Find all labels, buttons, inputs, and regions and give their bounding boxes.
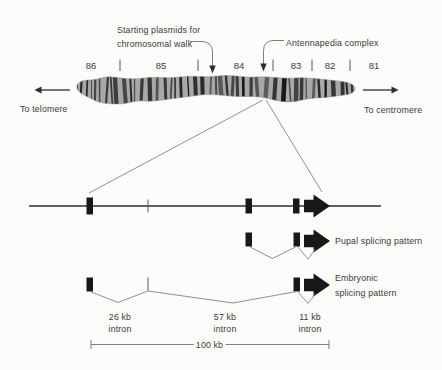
intron-2-label: intron: [214, 324, 237, 334]
region-number-85: 85: [156, 60, 167, 71]
telomere-label: To telomere: [20, 104, 68, 114]
exon-box-3: [293, 199, 300, 214]
callout-line-left: [89, 100, 263, 193]
region-number-84: 84: [234, 60, 245, 71]
region-number-83: 83: [291, 60, 302, 71]
intron-1-size: 26 kb: [109, 312, 131, 322]
intron-2-size: 57 kb: [214, 312, 236, 322]
embryonic-splice-junction-lines: [90, 291, 316, 304]
scale-bar: 100 kb: [91, 340, 329, 350]
chromosomal-walk-figure: Starting plasmids for chromosomal walk A…: [0, 0, 442, 370]
starting-plasmids-connector-line: [190, 42, 213, 67]
exon-box-2: [246, 199, 253, 214]
starting-plasmids-label-line1: Starting plasmids for: [117, 25, 200, 35]
pupal-exon-box-1: [246, 233, 253, 247]
region-number-86: 86: [86, 60, 97, 71]
pupal-exon-box-2: [294, 233, 301, 247]
polytene-chromosome-band: [76, 70, 355, 109]
intron-3-label: intron: [299, 324, 322, 334]
callout-line-right: [266, 100, 322, 192]
centromere-label: To centromere: [364, 105, 422, 115]
figure-canvas: Starting plasmids for chromosomal walk A…: [0, 0, 442, 370]
intron-3-size: 11 kb: [299, 312, 321, 322]
pupal-terminal-exon-arrow: [304, 230, 330, 253]
embryonic-pattern-label-line1: Embryonic: [335, 273, 378, 283]
embryonic-terminal-exon-arrow: [304, 274, 330, 297]
starting-plasmids-label-line2: chromosomal walk: [117, 39, 193, 49]
exon-box-1: [87, 198, 94, 215]
antennapedia-arrowhead-icon: [260, 64, 266, 72]
pupal-splicing-row: Pupal splicing pattern: [246, 230, 423, 260]
embryonic-exon-box-2: [294, 278, 301, 292]
region-number-81: 81: [369, 60, 380, 71]
pupal-pattern-label: Pupal splicing pattern: [335, 236, 422, 246]
embryonic-pattern-label-line2: splicing pattern: [335, 288, 397, 298]
intron-labels: 26 kb intron 57 kb intron 11 kb intron: [109, 312, 322, 334]
terminal-exon-arrow: [304, 195, 330, 218]
antennapedia-connector-line: [264, 41, 285, 65]
pupal-splice-junction-lines: [249, 247, 316, 260]
antennapedia-label: Antennapedia complex: [286, 38, 379, 48]
embryonic-splicing-row: Embryonic splicing pattern: [87, 273, 397, 304]
centromere-arrowhead-icon: [392, 87, 399, 94]
embryonic-exon-box-1: [87, 278, 94, 292]
intron-1-label: intron: [109, 324, 132, 334]
scale-bar-label: 100 kb: [196, 340, 223, 350]
starting-plasmids-arrowhead-icon: [209, 66, 215, 74]
region-number-82: 82: [325, 60, 336, 71]
telomere-arrowhead-icon: [35, 87, 42, 94]
